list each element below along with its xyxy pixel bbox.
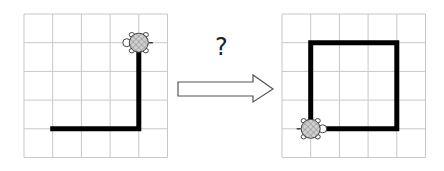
turtle-path <box>53 43 139 129</box>
turtle-diagram <box>0 0 444 171</box>
question-mark: ? <box>215 33 228 61</box>
before-panel <box>24 14 168 158</box>
turtle-icon <box>123 33 153 53</box>
after-panel <box>282 14 426 158</box>
turtle-icon <box>297 119 327 139</box>
turtle-path <box>311 43 397 129</box>
transform-arrow-icon <box>178 75 273 102</box>
